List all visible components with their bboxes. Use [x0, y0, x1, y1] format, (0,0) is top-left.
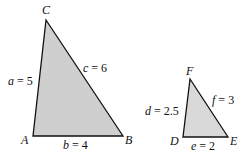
vertex-label-e: E — [229, 134, 238, 148]
side-var-c: c — [83, 61, 89, 75]
side-eq-b: = — [72, 138, 82, 152]
side-eq-a: = — [17, 74, 27, 88]
vertex-label-b: B — [125, 133, 133, 147]
side-label-c: c = 6 — [83, 61, 107, 75]
vertex-label-a: A — [20, 133, 29, 147]
side-value-d: 2.5 — [164, 104, 179, 118]
side-label-b: b = 4 — [63, 138, 88, 152]
side-var-b: b — [63, 138, 69, 152]
side-label-d: d = 2.5 — [145, 104, 179, 118]
side-value-b: 4 — [82, 138, 88, 152]
figure-svg: C A B a = 5 c = 6 b = 4 F D E d = 2.5 — [0, 0, 245, 157]
vertex-label-f: F — [185, 64, 194, 78]
side-value-e: 2 — [209, 139, 215, 153]
side-var-d: d — [145, 104, 152, 118]
side-label-f: f = 3 — [212, 93, 234, 107]
side-eq-c: = — [91, 61, 101, 75]
side-eq-f: = — [218, 93, 228, 107]
vertex-label-c: C — [42, 3, 51, 17]
side-var-f: f — [212, 93, 217, 107]
vertex-label-d: D — [169, 134, 179, 148]
triangle-abc — [33, 20, 123, 136]
triangle-def — [183, 79, 228, 137]
side-eq-d: = — [154, 104, 164, 118]
side-label-a: a = 5 — [8, 74, 33, 88]
side-value-f: 3 — [228, 93, 234, 107]
similar-triangles-figure: C A B a = 5 c = 6 b = 4 F D E d = 2.5 — [0, 0, 245, 157]
side-var-e: e — [191, 139, 197, 153]
side-eq-e: = — [199, 139, 209, 153]
side-value-c: 6 — [101, 61, 107, 75]
side-label-e: e = 2 — [191, 139, 215, 153]
side-value-a: 5 — [27, 74, 33, 88]
side-var-a: a — [8, 74, 14, 88]
